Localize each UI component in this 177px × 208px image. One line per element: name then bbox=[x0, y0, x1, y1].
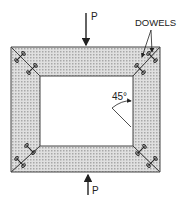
angle-label: 45° bbox=[112, 92, 127, 102]
angle-reference-line bbox=[112, 108, 131, 127]
frame-diagram bbox=[0, 0, 177, 208]
load-label-bottom: P bbox=[92, 186, 99, 196]
load-label-top: P bbox=[91, 12, 98, 22]
dowels-label: DOWELS bbox=[135, 18, 176, 28]
